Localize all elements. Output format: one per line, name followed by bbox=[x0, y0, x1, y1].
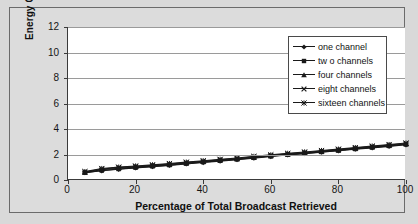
y-axis-tick bbox=[64, 78, 68, 79]
legend-item: sixteen channels bbox=[291, 96, 384, 110]
legend-marker-diamond-icon bbox=[293, 42, 315, 52]
legend-item: tw o channels bbox=[291, 54, 384, 68]
x-axis-title: Percentage of Total Broadcast Retrieved bbox=[67, 200, 405, 212]
legend-label: one channel bbox=[318, 42, 367, 52]
y-axis-tick-label: 4 bbox=[33, 123, 59, 134]
x-axis-tick-label: 80 bbox=[322, 184, 352, 195]
x-axis-tick-label: 40 bbox=[187, 184, 217, 195]
gridline bbox=[68, 155, 405, 156]
y-axis-tick bbox=[64, 155, 68, 156]
legend-label: tw o channels bbox=[318, 56, 373, 66]
gridline bbox=[68, 129, 405, 130]
y-axis-tick-label: 8 bbox=[33, 72, 59, 83]
legend-item: four channels bbox=[291, 68, 384, 82]
legend-label: four channels bbox=[318, 70, 372, 80]
y-axis-tick bbox=[64, 27, 68, 28]
y-axis-tick-label: 10 bbox=[33, 47, 59, 58]
series-3 bbox=[83, 141, 409, 174]
legend-label: sixteen channels bbox=[318, 98, 385, 108]
legend-marker-x-icon bbox=[293, 84, 315, 94]
x-axis-tick-label: 60 bbox=[255, 184, 285, 195]
x-axis-tick-label: 0 bbox=[52, 184, 82, 195]
chart-frame: Energy Consumption (Joules) 024681012 02… bbox=[9, 7, 405, 213]
legend-marker-asterisk-icon bbox=[293, 98, 315, 108]
legend-label: eight channels bbox=[318, 84, 376, 94]
y-axis-tick bbox=[64, 129, 68, 130]
y-axis-tick-label: 12 bbox=[33, 21, 59, 32]
y-axis-tick-label: 6 bbox=[33, 98, 59, 109]
legend-item: eight channels bbox=[291, 82, 384, 96]
y-axis-tick bbox=[64, 53, 68, 54]
y-axis-tick-label: 2 bbox=[33, 149, 59, 160]
chart-legend: one channeltw o channelsfour channelseig… bbox=[288, 36, 387, 114]
gridline bbox=[68, 27, 405, 28]
x-axis-tick-label: 20 bbox=[120, 184, 150, 195]
x-axis-tick-label: 100 bbox=[390, 184, 418, 195]
y-axis-tick bbox=[64, 104, 68, 105]
legend-marker-triangle-icon bbox=[293, 70, 315, 80]
series-4 bbox=[82, 140, 408, 174]
legend-marker-square-icon bbox=[293, 56, 315, 66]
y-axis-title: Energy Consumption (Joules) bbox=[24, 0, 35, 40]
legend-item: one channel bbox=[291, 40, 384, 54]
